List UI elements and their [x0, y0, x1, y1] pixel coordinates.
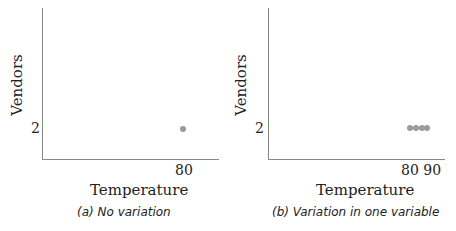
y-axis	[268, 8, 269, 159]
x-tick-label: 80	[175, 162, 193, 178]
data-point	[180, 126, 186, 132]
x-tick-labels: 80 90	[401, 162, 441, 178]
chart-panel-b: Vendors 2 80 90 Temperature (b) Variatio…	[228, 0, 456, 231]
chart-panel-a: Vendors 2 80 Temperature (a) No variatio…	[0, 0, 228, 231]
y-axis-label: Vendors	[8, 54, 26, 116]
caption: (a) No variation	[77, 205, 171, 219]
data-point	[424, 125, 430, 131]
y-tick-label: 2	[31, 120, 40, 136]
y-tick-label: 2	[255, 120, 264, 136]
y-axis	[42, 8, 43, 159]
x-axis-label: Temperature	[90, 181, 188, 199]
x-axis-label: Temperature	[316, 181, 414, 199]
x-axis	[42, 159, 219, 160]
x-axis	[268, 159, 445, 160]
caption: (b) Variation in one variable	[272, 205, 439, 219]
y-axis-label: Vendors	[232, 54, 250, 116]
